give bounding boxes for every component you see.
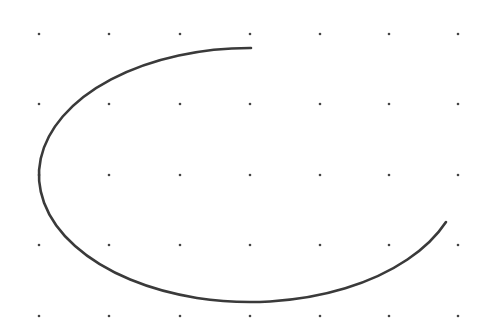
grid-dot [108, 33, 111, 36]
grid-dot [457, 315, 460, 318]
grid-dot [457, 103, 460, 106]
grid-dot [179, 174, 182, 177]
grid-dot [319, 103, 322, 106]
grid-dot [249, 103, 252, 106]
grid-dot [38, 244, 41, 247]
grid-dot [319, 315, 322, 318]
grid-dot [319, 244, 322, 247]
dot-grid [38, 33, 460, 318]
grid-dot [249, 315, 252, 318]
grid-dot [457, 174, 460, 177]
diagram-canvas [0, 0, 485, 335]
grid-dot [179, 33, 182, 36]
grid-dot [388, 33, 391, 36]
grid-dot [319, 174, 322, 177]
grid-dot [319, 33, 322, 36]
grid-dot [388, 315, 391, 318]
grid-dot [457, 33, 460, 36]
grid-dot [249, 174, 252, 177]
grid-dot [108, 315, 111, 318]
grid-dot [388, 103, 391, 106]
grid-dot [179, 315, 182, 318]
grid-dot [249, 244, 252, 247]
grid-dot [388, 174, 391, 177]
grid-dot [179, 103, 182, 106]
grid-dot [388, 244, 391, 247]
grid-dot [108, 244, 111, 247]
grid-dot [38, 315, 41, 318]
elliptical-arc [39, 48, 446, 302]
grid-dot [38, 33, 41, 36]
grid-dot [457, 244, 460, 247]
grid-dot [108, 174, 111, 177]
grid-dot [249, 33, 252, 36]
grid-dot [108, 103, 111, 106]
grid-dot [179, 244, 182, 247]
grid-dot [38, 103, 41, 106]
